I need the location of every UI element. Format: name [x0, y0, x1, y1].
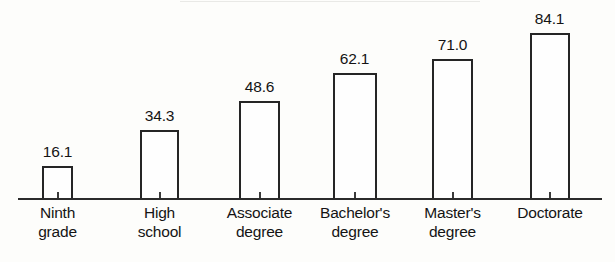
category-label-bachelors-degree: Bachelor's degree [300, 203, 410, 241]
category-label-masters-degree: Master's degree [400, 203, 505, 241]
category-label-2-line1: High [144, 204, 175, 221]
category-label-doctorate: Doctorate [497, 203, 603, 222]
value-label-1: 16.1 [17, 143, 98, 161]
bar-doctorate [530, 33, 570, 199]
category-label-associate-degree: Associate degree [206, 203, 313, 241]
category-label-high-school: High school [109, 203, 210, 241]
value-label-5: 71.0 [412, 36, 493, 54]
value-label-6: 84.1 [509, 10, 590, 28]
bar-chart-plot-area: 16.1 Ninth grade 34.3 High school 48.6 A… [0, 0, 615, 262]
bar-associate-degree [239, 101, 280, 199]
value-label-2: 34.3 [119, 107, 200, 125]
category-label-1-line1: Ninth [40, 204, 75, 221]
category-label-3-line2: degree [206, 222, 313, 241]
category-label-5-line2: degree [400, 222, 505, 241]
category-label-4-line1: Bachelor's [320, 204, 390, 221]
bar-masters-degree [432, 59, 473, 199]
category-label-5-line1: Master's [424, 204, 480, 221]
category-label-3-line1: Associate [227, 204, 292, 221]
category-label-ninth-grade: Ninth grade [7, 203, 108, 241]
chart-figure: 16.1 Ninth grade 34.3 High school 48.6 A… [0, 0, 615, 262]
bar-bachelors-degree [333, 73, 377, 199]
bar-high-school [140, 130, 179, 199]
category-label-1-line2: grade [7, 222, 108, 241]
category-label-6-line1: Doctorate [517, 204, 582, 221]
category-label-4-line2: degree [300, 222, 410, 241]
category-label-2-line2: school [109, 222, 210, 241]
value-label-3: 48.6 [219, 78, 300, 96]
x-axis-baseline [18, 198, 602, 200]
value-label-4: 62.1 [314, 50, 395, 68]
